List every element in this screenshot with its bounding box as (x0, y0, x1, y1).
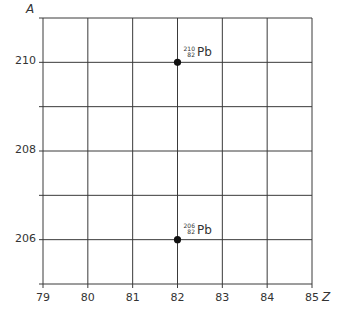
data-point (174, 236, 181, 243)
atomic-number: 82 (184, 52, 195, 58)
y-axis-label: A (26, 2, 34, 16)
x-tick-label: 81 (121, 291, 145, 304)
y-tick-label: 208 (6, 143, 36, 156)
x-tick-label: 80 (76, 291, 100, 304)
x-tick-label: 85 (300, 291, 324, 304)
nuclide-label: 20682Pb (184, 219, 212, 238)
nuclide-chart (0, 0, 345, 327)
x-tick-label: 83 (210, 291, 234, 304)
atomic-number: 82 (184, 229, 195, 235)
element-symbol: Pb (197, 222, 212, 236)
data-point (174, 59, 181, 66)
y-tick-label: 210 (6, 54, 36, 67)
y-tick-label: 206 (6, 232, 36, 245)
nuclide-label: 21082Pb (184, 41, 212, 60)
x-tick-label: 84 (255, 291, 279, 304)
x-tick-label: 79 (31, 291, 55, 304)
grid-lines (39, 18, 312, 288)
x-tick-label: 82 (166, 291, 190, 304)
element-symbol: Pb (197, 45, 212, 59)
